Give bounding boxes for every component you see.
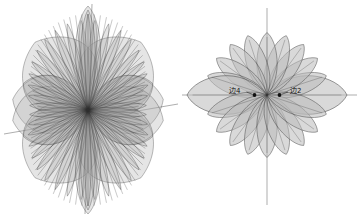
left-polar-plot-panel <box>0 0 180 217</box>
marker-dot-left <box>253 93 257 97</box>
right-polar-plot-svg: 边4 边2 <box>180 0 359 217</box>
right-plot-content <box>182 8 357 205</box>
left-polar-plot-svg <box>0 0 180 217</box>
left-plot-content <box>4 4 178 214</box>
right-polar-plot-panel: 边4 边2 <box>180 0 359 217</box>
polar-figure-pair: 边4 边2 <box>0 0 359 217</box>
marker-dot-right <box>278 93 282 97</box>
label-bian2: 边2 <box>290 86 301 95</box>
label-bian4: 边4 <box>229 86 241 95</box>
